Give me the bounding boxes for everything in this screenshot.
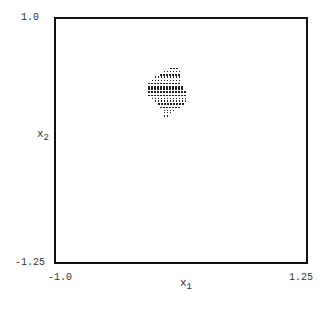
data-point bbox=[163, 95, 165, 97]
data-point bbox=[175, 88, 177, 90]
data-point bbox=[167, 112, 169, 114]
data-point bbox=[157, 83, 159, 85]
data-point bbox=[182, 103, 184, 105]
data-point bbox=[170, 68, 172, 70]
data-point bbox=[164, 80, 166, 82]
data-point bbox=[178, 91, 180, 93]
data-point bbox=[148, 83, 150, 85]
data-point bbox=[148, 95, 150, 97]
data-point bbox=[178, 88, 180, 90]
data-point bbox=[164, 71, 166, 73]
y-tick-top: 1.0 bbox=[21, 12, 39, 23]
data-point bbox=[163, 91, 165, 93]
data-point bbox=[173, 103, 175, 105]
data-point bbox=[178, 95, 180, 97]
data-point bbox=[173, 68, 175, 70]
data-point bbox=[148, 88, 150, 90]
data-point bbox=[158, 103, 160, 105]
data-point bbox=[164, 100, 166, 102]
x-tick-right: 1.25 bbox=[289, 272, 313, 283]
data-point bbox=[151, 91, 153, 93]
data-point bbox=[182, 100, 184, 102]
data-point bbox=[152, 98, 154, 100]
data-point bbox=[154, 88, 156, 90]
data-point bbox=[158, 80, 160, 82]
y-axis-label: x2 bbox=[37, 128, 49, 143]
data-point bbox=[154, 91, 156, 93]
data-point bbox=[169, 91, 171, 93]
data-point bbox=[155, 76, 157, 78]
data-point bbox=[176, 80, 178, 82]
x-axis-label: x1 bbox=[180, 277, 192, 292]
data-point bbox=[167, 115, 169, 117]
data-point bbox=[181, 88, 183, 90]
data-point bbox=[160, 83, 162, 85]
data-point bbox=[170, 100, 172, 102]
data-point bbox=[181, 91, 183, 93]
data-point bbox=[167, 71, 169, 73]
data-point bbox=[179, 71, 181, 73]
data-point bbox=[164, 115, 166, 117]
data-point bbox=[167, 80, 169, 82]
data-point bbox=[176, 68, 178, 70]
data-point bbox=[173, 71, 175, 73]
x-tick-left: -1.0 bbox=[48, 272, 72, 283]
data-point bbox=[170, 71, 172, 73]
data-point bbox=[172, 83, 174, 85]
data-point bbox=[167, 100, 169, 102]
data-point bbox=[178, 107, 180, 109]
data-point bbox=[178, 83, 180, 85]
data-point bbox=[160, 107, 162, 109]
data-point bbox=[166, 88, 168, 90]
data-point bbox=[164, 112, 166, 114]
data-point bbox=[167, 103, 169, 105]
data-point bbox=[151, 88, 153, 90]
data-point bbox=[155, 100, 157, 102]
data-point bbox=[166, 83, 168, 85]
data-point bbox=[169, 95, 171, 97]
data-point bbox=[170, 76, 172, 78]
data-point bbox=[163, 83, 165, 85]
data-point bbox=[151, 83, 153, 85]
data-point bbox=[170, 103, 172, 105]
data-point bbox=[166, 95, 168, 97]
data-point bbox=[163, 107, 165, 109]
data-point bbox=[176, 100, 178, 102]
data-point bbox=[160, 95, 162, 97]
data-point bbox=[164, 103, 166, 105]
data-point bbox=[172, 88, 174, 90]
data-point bbox=[172, 91, 174, 93]
data-point bbox=[154, 95, 156, 97]
data-point bbox=[175, 107, 177, 109]
data-point bbox=[181, 95, 183, 97]
data-point bbox=[169, 107, 171, 109]
data-point bbox=[184, 91, 186, 93]
data-point bbox=[167, 76, 169, 78]
data-point bbox=[154, 83, 156, 85]
data-point bbox=[176, 71, 178, 73]
data-point bbox=[185, 100, 187, 102]
data-point bbox=[184, 95, 186, 97]
plot-area bbox=[54, 17, 308, 264]
data-point bbox=[175, 83, 177, 85]
data-point bbox=[158, 100, 160, 102]
data-point bbox=[172, 95, 174, 97]
data-point bbox=[152, 80, 154, 82]
y-tick-bottom: -1.25 bbox=[15, 257, 45, 268]
data-point bbox=[157, 91, 159, 93]
data-point bbox=[148, 91, 150, 93]
data-point bbox=[179, 103, 181, 105]
data-point bbox=[169, 88, 171, 90]
data-point bbox=[179, 76, 181, 78]
data-point bbox=[176, 76, 178, 78]
data-point bbox=[166, 107, 168, 109]
data-point bbox=[173, 100, 175, 102]
data-point bbox=[151, 95, 153, 97]
data-point bbox=[164, 76, 166, 78]
data-point bbox=[166, 91, 168, 93]
data-point bbox=[179, 80, 181, 82]
data-point bbox=[161, 100, 163, 102]
data-point bbox=[169, 83, 171, 85]
data-point bbox=[170, 80, 172, 82]
data-point bbox=[157, 88, 159, 90]
